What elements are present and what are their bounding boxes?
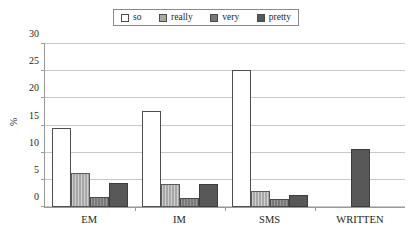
- x-axis-tick: [225, 207, 226, 211]
- bar-so-im[interactable]: [142, 111, 161, 207]
- x-axis-labels: EMIMSMSWRITTEN: [44, 214, 405, 225]
- bar-so-sms[interactable]: [232, 70, 251, 207]
- legend-item-very[interactable]: very: [210, 13, 239, 23]
- bars: [232, 44, 308, 207]
- y-axis-tick-label: 15: [29, 109, 39, 120]
- legend-swatch-so: [121, 14, 129, 22]
- y-axis-tick-label: 25: [29, 55, 39, 66]
- chart-legend: so really very pretty: [113, 9, 299, 26]
- y-axis-tick-label: 0: [34, 191, 39, 202]
- bar-really-em[interactable]: [71, 173, 90, 207]
- x-axis-label-sms: SMS: [225, 214, 315, 225]
- y-axis-tick-label: 10: [29, 136, 39, 147]
- bar-very-sms[interactable]: [270, 199, 289, 207]
- x-axis-label-im: IM: [134, 214, 224, 225]
- legend-label-so: so: [133, 13, 141, 23]
- legend-swatch-pretty: [257, 14, 265, 22]
- x-axis-label-em: EM: [44, 214, 134, 225]
- bar-group: [135, 44, 225, 207]
- bars: [142, 44, 218, 207]
- plot-area: 051015202530: [44, 44, 405, 208]
- y-axis-tick-label: 30: [29, 28, 39, 39]
- legend-swatch-really: [159, 14, 167, 22]
- bar-chart: so really very pretty % 051015202530 EMI…: [0, 0, 419, 243]
- bar-groups: [45, 44, 405, 207]
- x-axis-tick: [135, 207, 136, 211]
- legend-item-so[interactable]: so: [121, 13, 141, 23]
- y-axis-title: %: [8, 118, 19, 126]
- y-axis-tick-label: 5: [34, 163, 39, 174]
- x-axis-tick: [315, 207, 316, 211]
- legend-label-really: really: [171, 13, 193, 23]
- legend-swatch-very: [210, 14, 218, 22]
- bar-group: [225, 44, 315, 207]
- legend-label-pretty: pretty: [269, 13, 291, 23]
- bar-group: [315, 44, 405, 207]
- bars: [52, 44, 128, 207]
- bars: [351, 44, 370, 207]
- y-axis-tick-label: 20: [29, 82, 39, 93]
- bar-really-sms[interactable]: [251, 191, 270, 207]
- bar-really-im[interactable]: [161, 184, 180, 207]
- bar-very-em[interactable]: [90, 197, 109, 207]
- bar-very-im[interactable]: [180, 198, 199, 207]
- x-axis-label-written: WRITTEN: [315, 214, 405, 225]
- bar-so-em[interactable]: [52, 128, 71, 207]
- legend-label-very: very: [222, 13, 239, 23]
- bar-pretty-sms[interactable]: [289, 195, 308, 207]
- bar-pretty-im[interactable]: [199, 184, 218, 207]
- legend-item-pretty[interactable]: pretty: [257, 13, 291, 23]
- bar-pretty-written[interactable]: [351, 149, 370, 207]
- legend-item-really[interactable]: really: [159, 13, 193, 23]
- bar-group: [45, 44, 135, 207]
- bar-pretty-em[interactable]: [109, 183, 128, 207]
